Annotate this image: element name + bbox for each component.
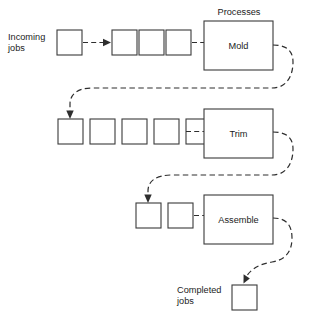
job-box-mold-queue-2 [139,30,164,55]
job-box-assemble-queue-2 [168,203,193,228]
job-box-mold-queue-3 [166,30,191,55]
arrowhead-incoming-to-queue1 [103,39,111,46]
job-box-incoming [57,30,82,55]
process-flow-diagram: Processes Incoming jobs Mold Trim [0,0,311,316]
job-box-completed [232,285,257,310]
arrowhead-mold-to-queue2 [66,111,73,120]
incoming-jobs-label-line2: jobs [7,43,25,53]
completed-jobs-label-line2: jobs [176,296,194,306]
process-label-mold: Mold [229,41,249,51]
process-label-trim: Trim [229,129,247,139]
job-box-trim-queue-1 [58,119,83,144]
job-box-mold-queue-1 [112,30,137,55]
arrowhead-assemble-to-completed [244,274,250,283]
job-box-trim-queue-2 [90,119,115,144]
job-box-trim-queue-4 [154,119,179,144]
job-box-trim-queue-3 [122,119,147,144]
completed-jobs-label-line1: Completed [177,285,221,295]
diagram-canvas: Processes Incoming jobs Mold Trim [0,0,311,316]
process-label-assemble: Assemble [218,215,258,225]
arrowhead-trim-to-queue3 [144,195,151,204]
incoming-jobs-label-line1: Incoming [8,32,45,42]
processes-header-label: Processes [218,7,261,17]
job-box-assemble-queue-1 [136,203,161,228]
